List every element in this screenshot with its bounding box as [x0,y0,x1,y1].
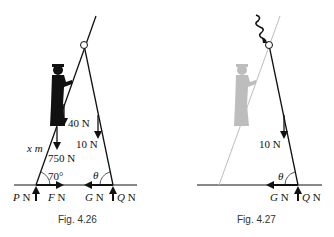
label-F: F N [47,191,65,203]
label-70deg: 70° [48,170,63,182]
label-40N: 40 N [68,117,90,129]
label-theta: θ [278,170,284,182]
figure-caption: Fig. 4.27 [237,214,276,225]
angle-theta-arc [285,172,295,185]
label-x-m: x m [26,142,43,154]
hinge-force-squiggle-icon [256,15,266,41]
label-10N: 10 N [76,138,98,150]
label-Q: Q N [302,191,321,203]
ghost-man-silhouette-icon [234,64,256,126]
figure-caption: Fig. 4.26 [58,214,97,225]
label-P: P N [12,191,30,203]
angle-theta-arc [100,172,110,185]
label-G: G N [270,191,289,203]
label-10N: 10 N [259,138,281,150]
ladder-diagrams: 40 N 10 N 750 N x m 70° θ P N F N G N Q … [0,0,334,237]
figure-4-27: 10 N θ G N Q N Fig. 4.27 [197,15,322,225]
label-750N: 750 N [48,152,75,164]
hinge-icon [81,42,88,49]
label-theta: θ [93,169,99,181]
figure-4-26: 40 N 10 N 750 N x m 70° θ P N F N G N Q … [12,16,137,225]
ghost-ladder-leg [219,16,280,185]
label-G: G N [85,191,104,203]
label-Q: Q N [117,191,136,203]
